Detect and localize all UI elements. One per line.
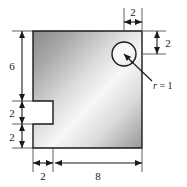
drawing-canvas: r=1 6 2 2 2 8 2 2 <box>0 0 187 187</box>
dim-label-bottom-left: 2 <box>40 170 46 182</box>
radius-equals: = <box>159 80 165 91</box>
radius-annotation-label: r=1 <box>153 80 173 91</box>
dim-label-left-lower: 2 <box>9 131 15 143</box>
dim-label-left-upper: 6 <box>9 60 15 72</box>
dim-label-top-right: 2 <box>130 6 136 18</box>
dim-label-right-upper: 2 <box>165 37 171 49</box>
radius-value: 1 <box>168 80 173 91</box>
dim-label-bottom-right: 8 <box>95 170 101 182</box>
radius-symbol: r <box>153 80 157 91</box>
engineering-drawing-figure: r=1 6 2 2 2 8 2 2 <box>0 0 187 187</box>
dim-label-left-middle: 2 <box>9 107 15 119</box>
